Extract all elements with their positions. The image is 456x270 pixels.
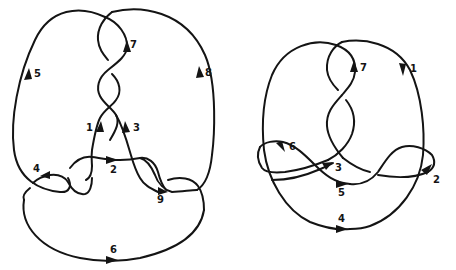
left-knot-arc-9-b xyxy=(168,178,204,210)
left-knot-label-8: 8 xyxy=(205,67,212,78)
right-knot-braid-a xyxy=(327,45,355,158)
left-knot-label-4: 4 xyxy=(33,163,40,174)
right-knot-arrow-3 xyxy=(322,162,333,170)
right-knot-label-7: 7 xyxy=(360,62,367,73)
left-knot-label-3: 3 xyxy=(133,122,140,133)
right-knot-arrow-7 xyxy=(350,60,358,72)
left-knot-label-2: 2 xyxy=(110,164,117,175)
left-knot-braid-strand-b xyxy=(92,12,120,166)
right-knot-label-6: 6 xyxy=(289,141,296,152)
left-knot-braid-strand-a xyxy=(98,17,127,140)
left-knot-arrow-6 xyxy=(106,256,118,264)
left-knot-arc-4-b xyxy=(23,188,30,200)
left-knot-label-7: 7 xyxy=(130,39,137,50)
left-knot-diagram: 1 2 3 4 5 6 7 8 9 xyxy=(13,9,214,264)
left-knot-arrow-5 xyxy=(24,68,32,80)
right-knot-label-1: 1 xyxy=(410,63,417,74)
left-knot-label-5: 5 xyxy=(34,68,41,79)
left-knot-label-9: 9 xyxy=(157,194,164,205)
right-knot-diagram: 1 2 3 4 5 6 7 xyxy=(258,41,440,233)
right-knot-arrow-1 xyxy=(399,63,406,76)
left-knot-arrow-3 xyxy=(122,121,130,133)
right-knot-label-3: 3 xyxy=(335,162,342,173)
left-knot-arc-8 xyxy=(112,9,214,190)
right-knot-arrow-4 xyxy=(336,225,348,233)
right-knot-outer-left xyxy=(263,43,350,230)
left-knot-label-6: 6 xyxy=(110,244,117,255)
left-knot-arrow-8 xyxy=(196,66,204,78)
knot-diagrams-figure: 1 2 3 4 5 6 7 8 9 1 2 xyxy=(0,0,456,270)
right-knot-braid-b xyxy=(327,42,354,160)
right-knot-label-2: 2 xyxy=(433,174,440,185)
left-knot-arc-4 xyxy=(33,166,92,194)
left-knot-label-1: 1 xyxy=(86,122,93,133)
left-knot-arc-2 xyxy=(70,157,166,190)
left-knot-arrow-2 xyxy=(106,156,118,164)
right-knot-label-4: 4 xyxy=(338,213,345,224)
right-knot-label-5: 5 xyxy=(338,187,345,198)
